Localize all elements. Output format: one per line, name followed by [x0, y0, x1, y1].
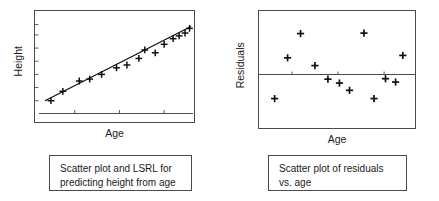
data-point-marker: [186, 25, 193, 32]
x-axis-label-age-left: Age: [34, 128, 195, 139]
statistics-figure: Height Age Residuals Age Scatter plot an…: [0, 0, 439, 201]
caption-right-line-2: vs. age: [279, 176, 397, 190]
data-point-marker: [324, 76, 331, 83]
caption-box-right: Scatter plot of residuals vs. age: [268, 155, 407, 191]
data-point-marker: [382, 75, 389, 82]
caption-right-line-1: Scatter plot of residuals: [279, 162, 397, 176]
data-point-marker: [297, 30, 304, 37]
data-point-marker: [135, 55, 142, 62]
data-point-marker: [124, 62, 131, 69]
plot-canvas-right: [258, 10, 416, 129]
caption-left-line-1: Scatter plot and LSRL for: [60, 162, 182, 176]
data-point-marker: [98, 71, 105, 78]
data-point-marker: [271, 95, 278, 102]
data-point-marker: [59, 88, 66, 95]
data-point-marker: [346, 87, 353, 94]
plot-canvas-left: [34, 10, 195, 123]
data-point-marker: [152, 49, 159, 56]
data-point-marker: [370, 95, 377, 102]
caption-box-left: Scatter plot and LSRL for predicting hei…: [49, 155, 192, 191]
scatter-plot-residuals-vs-age: [258, 10, 416, 129]
y-axis-label-residuals: Residuals: [235, 34, 246, 96]
x-axis-label-age-right: Age: [258, 134, 416, 145]
data-point-marker: [284, 54, 291, 61]
data-point-marker: [399, 52, 406, 59]
data-point-marker: [311, 62, 318, 69]
y-axis-label-height: Height: [13, 33, 24, 89]
data-point-marker: [76, 78, 83, 85]
data-point-marker: [141, 47, 148, 54]
data-point-marker: [360, 29, 367, 36]
caption-left-line-2: predicting height from age: [60, 176, 182, 190]
scatter-plot-height-vs-age: [34, 10, 195, 123]
data-point-marker: [392, 78, 399, 85]
regression-line-lsrl: [45, 26, 191, 100]
data-point-marker: [336, 79, 343, 86]
